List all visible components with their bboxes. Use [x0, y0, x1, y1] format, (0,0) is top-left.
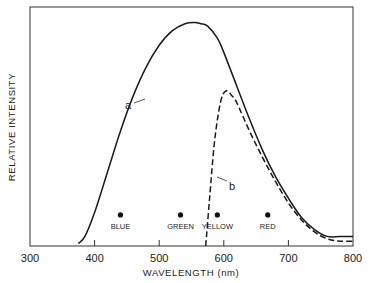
marker-dot-red [265, 212, 270, 217]
x-tick-label: 800 [344, 252, 362, 264]
leader-line-a [134, 99, 145, 103]
x-axis-ticks: 300400500600700800 [21, 240, 362, 264]
plot-border [30, 7, 353, 246]
x-tick-label: 400 [85, 252, 103, 264]
curve-labels: ab [125, 99, 235, 192]
spectrum-chart: 300400500600700800 BLUEGREENYELLOWRED ab… [0, 0, 369, 283]
y-axis-title: RELATIVE INTENSITY [6, 73, 17, 181]
color-markers: BLUEGREENYELLOWRED [111, 212, 277, 231]
x-tick-label: 300 [21, 252, 39, 264]
leader-line-b [217, 177, 227, 181]
x-tick-label: 500 [150, 252, 168, 264]
marker-dot-yellow [215, 212, 220, 217]
curve-label-a: a [125, 99, 132, 111]
marker-label-green: GREEN [167, 222, 194, 231]
x-tick-label: 700 [279, 252, 297, 264]
marker-dot-green [178, 212, 183, 217]
marker-label-blue: BLUE [111, 222, 131, 231]
curve-label-b: b [229, 180, 235, 192]
x-tick-label: 600 [215, 252, 233, 264]
marker-dot-blue [118, 212, 123, 217]
marker-label-red: RED [260, 222, 276, 231]
plot-frame [30, 7, 353, 246]
marker-label-yellow: YELLOW [202, 222, 234, 231]
x-axis-title: WAVELENGTH (nm) [143, 267, 240, 278]
